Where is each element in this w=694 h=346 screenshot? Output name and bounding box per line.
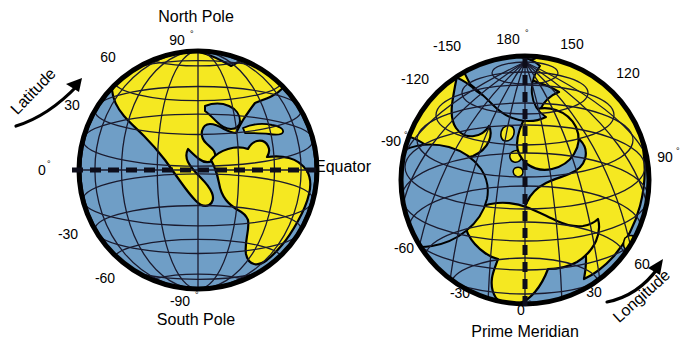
equator-label: Equator <box>315 158 372 175</box>
tick-label-lon-minus150: -150 <box>433 38 461 54</box>
degree-symbol-lat-90: ° <box>190 29 194 39</box>
tick-label-lon-180: 180 <box>496 31 520 47</box>
tick-label-lat-90: 90 <box>169 32 185 48</box>
tick-label-lat-60: 60 <box>100 49 116 65</box>
degree-symbol-lon-0: ° <box>528 299 532 309</box>
tick-label-lat-30: 30 <box>64 97 80 113</box>
island-small-b <box>513 167 523 177</box>
tick-label-lat-minus60: -60 <box>95 270 115 286</box>
tick-label-lon-minus90: -90 <box>381 133 401 149</box>
prime-meridian-label: Prime Meridian <box>471 323 579 340</box>
tick-label-lon-90: 90 <box>657 149 673 165</box>
south-pole-label: South Pole <box>157 311 235 328</box>
tick-label-lon-150: 150 <box>560 36 584 52</box>
tick-label-lon-minus30: -30 <box>450 285 470 301</box>
degree-symbol-lat-minus90: ° <box>195 290 199 300</box>
degree-symbol-lon-minus90: ° <box>404 130 408 140</box>
degree-symbol-lon-90: ° <box>676 146 680 156</box>
tick-label-lon-60: 60 <box>634 256 650 272</box>
tick-label-lon-120: 120 <box>616 65 640 81</box>
globes-figure: Latitude 90 ° 60 30 0 ° -30 -60 -90 ° No… <box>0 0 694 346</box>
tick-label-lon-minus60: -60 <box>394 240 414 256</box>
tick-label-lat-0: 0 <box>38 162 46 178</box>
tick-label-lon-0: 0 <box>517 302 525 318</box>
degree-symbol-lon-180: ° <box>525 28 529 38</box>
tick-label-lat-minus30: -30 <box>58 226 78 242</box>
tick-label-lon-30: 30 <box>586 284 602 300</box>
north-pole-label: North Pole <box>158 8 234 25</box>
tick-label-lon-minus120: -120 <box>401 71 429 87</box>
degree-symbol-lat-0: ° <box>47 159 51 169</box>
tick-label-lat-minus90: -90 <box>170 293 190 309</box>
